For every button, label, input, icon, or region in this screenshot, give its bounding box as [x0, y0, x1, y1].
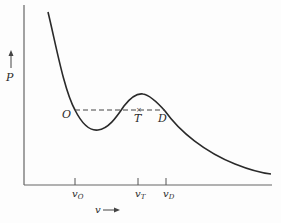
tick-label-vd: vD [163, 188, 175, 201]
point-label-d: D [157, 112, 167, 125]
diagram-svg: P × O T D vO vT vD v [0, 0, 281, 223]
tick-label-vt: vT [135, 188, 147, 201]
isotherm-curve [48, 12, 271, 174]
up-arrow-icon [9, 50, 14, 68]
x-axis-label: v [95, 204, 101, 215]
right-arrow-icon [103, 208, 120, 213]
y-axis-label: P [5, 71, 14, 84]
point-label-o: O [62, 108, 71, 121]
tick-label-vo: vO [72, 188, 84, 201]
pv-diagram: P × O T D vO vT vD v [0, 0, 281, 223]
